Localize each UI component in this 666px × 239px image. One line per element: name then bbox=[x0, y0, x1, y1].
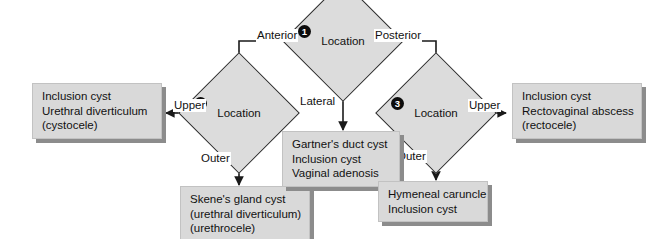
decision-badge-3: 3 bbox=[391, 97, 404, 110]
outcome-box-anterior-outer[interactable]: Skene's gland cyst (urethral diverticulu… bbox=[180, 186, 310, 239]
outcome-line: (cystocele) bbox=[42, 118, 153, 133]
edge-label-upper-left: Upper bbox=[173, 99, 206, 112]
outcome-line: Inclusion cyst bbox=[42, 89, 153, 104]
decision-badge-1: 1 bbox=[298, 25, 311, 38]
outcome-line: Urethral diverticulum bbox=[42, 104, 153, 119]
flowchart-canvas: Location 1 Location 2 Location 3 Anterio… bbox=[0, 0, 666, 239]
outcome-line: Inclusion cyst bbox=[292, 152, 391, 167]
outcome-box-posterior-upper[interactable]: Inclusion cyst Rectovaginal abscess (rec… bbox=[512, 83, 642, 139]
edge-label-outer-left: Outer bbox=[200, 152, 231, 165]
outcome-line: Inclusion cyst bbox=[388, 202, 479, 217]
outcome-line: Gartner's duct cyst bbox=[292, 137, 391, 152]
edge-label-posterior: Posterior bbox=[374, 29, 422, 42]
outcome-box-anterior-upper[interactable]: Inclusion cyst Urethral diverticulum (cy… bbox=[32, 83, 162, 139]
edge-label-lateral: Lateral bbox=[299, 95, 336, 108]
outcome-line: Rectovaginal abscess bbox=[522, 104, 633, 119]
outcome-box-posterior-outer[interactable]: Hymeneal caruncle Inclusion cyst bbox=[378, 181, 488, 222]
outcome-box-lateral[interactable]: Gartner's duct cyst Inclusion cyst Vagin… bbox=[282, 131, 400, 187]
edge-label-anterior: Anterior bbox=[256, 29, 298, 42]
outcome-line: (rectocele) bbox=[522, 118, 633, 133]
outcome-line: Skene's gland cyst bbox=[190, 192, 301, 207]
outcome-line: Inclusion cyst bbox=[522, 89, 633, 104]
outcome-line: (urethrocele) bbox=[190, 221, 301, 236]
edge-label-upper-right: Upper bbox=[468, 99, 501, 112]
edge-label-outer-right: Outer bbox=[396, 150, 427, 163]
outcome-line: Hymeneal caruncle bbox=[388, 187, 479, 202]
outcome-line: Vaginal adenosis bbox=[292, 166, 391, 181]
outcome-line: (urethral diverticulum) bbox=[190, 207, 301, 222]
